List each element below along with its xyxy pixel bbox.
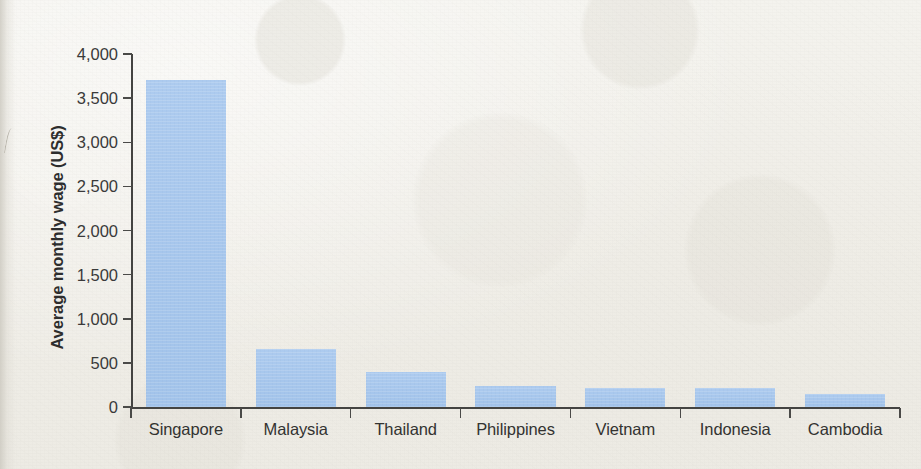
- bar-cambodia: [805, 394, 885, 407]
- x-axis-tick-mark: [789, 408, 791, 418]
- y-axis-tick-mark: [123, 274, 132, 276]
- x-axis-label-malaysia: Malaysia: [241, 420, 351, 439]
- y-axis-tick-mark: [123, 362, 132, 364]
- y-axis-tick-label: 1,500: [40, 266, 118, 283]
- y-axis-tick-labels: 05001,0001,5002,0002,5003,0003,5004,000: [40, 0, 118, 469]
- y-axis-tick-mark: [123, 230, 132, 232]
- y-axis-tick-mark: [123, 53, 132, 55]
- x-axis-label-vietnam: Vietnam: [570, 420, 680, 439]
- y-axis-tick-mark: [123, 186, 132, 188]
- bar-malaysia: [256, 349, 336, 407]
- bar-chart: Average monthly wage (US$) 05001,0001,50…: [0, 0, 921, 469]
- x-axis-tick-mark: [240, 408, 242, 418]
- scanned-page: Average monthly wage (US$) 05001,0001,50…: [0, 0, 921, 469]
- y-axis-tick-label: 3,000: [40, 134, 118, 151]
- x-axis-tick-mark: [570, 408, 572, 418]
- x-axis-tick-mark: [460, 408, 462, 418]
- bar-singapore: [146, 80, 226, 407]
- y-axis-tick-label: 2,000: [40, 222, 118, 239]
- y-axis-tick-label: 1,000: [40, 311, 118, 328]
- y-axis-line: [131, 54, 133, 409]
- y-axis-tick-mark: [123, 318, 132, 320]
- bar-indonesia: [695, 388, 775, 407]
- y-axis-tick-mark: [123, 142, 132, 144]
- y-axis-tick-label: 2,500: [40, 178, 118, 195]
- x-axis-tick-mark: [350, 408, 352, 418]
- x-axis-label-thailand: Thailand: [351, 420, 461, 439]
- x-axis-label-philippines: Philippines: [461, 420, 571, 439]
- x-axis-tick-mark: [680, 408, 682, 418]
- bar-vietnam: [585, 388, 665, 407]
- y-axis-tick-label: 3,500: [40, 90, 118, 107]
- x-axis-label-cambodia: Cambodia: [790, 420, 900, 439]
- y-axis-tick-label: 4,000: [40, 46, 118, 63]
- bar-thailand: [366, 372, 446, 407]
- bar-philippines: [475, 386, 555, 407]
- x-axis-label-singapore: Singapore: [131, 420, 241, 439]
- y-axis-tick-label: 500: [40, 355, 118, 372]
- x-axis-end-cap: [899, 408, 901, 418]
- y-axis-tick-label: 0: [40, 399, 118, 416]
- y-axis-tick-mark: [123, 97, 132, 99]
- x-axis-end-cap: [130, 408, 132, 418]
- x-axis-line: [131, 407, 900, 409]
- x-axis-label-indonesia: Indonesia: [680, 420, 790, 439]
